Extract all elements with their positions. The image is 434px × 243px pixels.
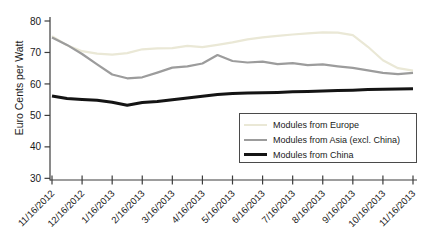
y-tick-label: 30 <box>30 173 42 184</box>
legend-label-asia: Modules from Asia (excl. China) <box>273 135 400 145</box>
y-tick-label: 50 <box>30 110 42 121</box>
y-tick-label: 40 <box>30 141 42 152</box>
legend-label-china: Modules from China <box>273 150 354 160</box>
series-line-china <box>52 37 413 78</box>
legend-line-swatch-china <box>244 153 267 156</box>
legend-item-china: Modules from China <box>240 147 416 162</box>
series-line-china <box>52 89 413 106</box>
legend-item-asia: Modules from Asia (excl. China) <box>240 132 416 147</box>
y-tick-label: 60 <box>30 79 42 90</box>
y-tick-label: 80 <box>30 16 42 27</box>
price-trend-chart: Euro Cents per Watt 30405060708011/16/20… <box>0 0 434 243</box>
legend-line-swatch-asia <box>244 139 267 141</box>
legend: Modules from Europe Modules from Asia (e… <box>239 113 417 163</box>
legend-label-europe: Modules from Europe <box>273 120 359 130</box>
y-tick-label: 70 <box>30 47 42 58</box>
legend-line-swatch-europe <box>244 124 267 126</box>
series-line-europe <box>52 32 413 70</box>
y-axis-label: Euro Cents per Watt <box>13 41 25 136</box>
legend-item-europe: Modules from Europe <box>240 117 416 132</box>
